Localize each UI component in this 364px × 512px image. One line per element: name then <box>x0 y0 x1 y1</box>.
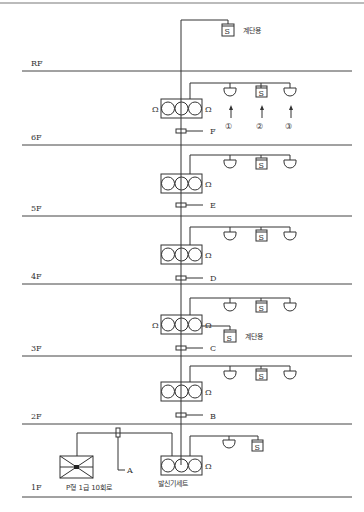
stair-label-top: 계단용 <box>243 26 262 35</box>
svg-text:S: S <box>227 334 232 343</box>
svg-text:S: S <box>255 443 260 452</box>
svg-text:Ω: Ω <box>205 251 212 260</box>
svg-text:S: S <box>259 89 264 98</box>
marker-d: D <box>210 274 216 283</box>
svg-text:S: S <box>259 233 264 242</box>
svg-text:S: S <box>259 372 264 381</box>
svg-text:Ω: Ω <box>205 105 212 114</box>
svg-text:Ω: Ω <box>152 321 159 330</box>
stair-label-3f: 계단용 <box>245 332 264 341</box>
panel-3f: Ω Ω S S 계단용 C <box>152 298 296 353</box>
svg-text:S: S <box>259 304 264 313</box>
panel-1f: Ω S 발신기세트 <box>158 436 263 488</box>
transmitter-set-label: 발신기세트 <box>158 479 189 488</box>
panel-6f: Ω Ω S ① ② ③ F <box>152 83 296 136</box>
floor-label-6f: 6F <box>31 133 42 142</box>
floor-label-rf: RF <box>31 59 43 68</box>
receiver-panel: P형 1급 10회로 A <box>60 428 172 492</box>
riser-diagram: RF 6F 5F 4F 3F 2F 1F S 계단용 Ω Ω S <box>0 0 364 512</box>
device-number-2: ② <box>256 122 263 131</box>
svg-text:Ω: Ω <box>205 388 212 397</box>
rooftop-stair-detector: S 계단용 <box>181 20 262 36</box>
marker-a: A <box>126 466 133 475</box>
marker-f: F <box>210 127 216 136</box>
svg-text:S: S <box>259 161 264 170</box>
floor-label-3f: 3F <box>31 344 42 353</box>
device-number-3: ③ <box>285 122 292 131</box>
floor-label-2f: 2F <box>31 412 42 421</box>
marker-b: B <box>210 412 216 421</box>
svg-text:Ω: Ω <box>205 462 212 471</box>
floor-labels: RF 6F 5F 4F 3F 2F 1F <box>31 59 43 492</box>
marker-e: E <box>210 201 216 210</box>
marker-c: C <box>210 344 216 353</box>
svg-text:Ω: Ω <box>205 180 212 189</box>
floor-label-4f: 4F <box>31 272 42 281</box>
smoke-symbol: S <box>225 27 230 36</box>
floor-label-5f: 5F <box>31 204 42 213</box>
receiver-label: P형 1급 10회로 <box>66 484 113 492</box>
floor-label-1f: 1F <box>31 483 42 492</box>
device-number-1: ① <box>225 122 232 131</box>
floor-lines <box>22 71 352 497</box>
svg-text:Ω: Ω <box>152 105 159 114</box>
